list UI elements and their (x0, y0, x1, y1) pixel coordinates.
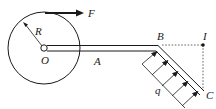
label-point-i: I (202, 30, 208, 42)
label-center: O (41, 54, 49, 66)
label-load-q: q (155, 84, 161, 96)
label-point-c: C (206, 89, 214, 101)
distributed-load (142, 52, 198, 109)
label-point-b: B (157, 30, 164, 42)
label-radius: R (34, 25, 42, 37)
label-force: F (87, 7, 95, 19)
point-i-dot (201, 43, 205, 47)
force-arrowhead (76, 10, 84, 17)
label-point-a: A (93, 55, 101, 67)
radius-arrowhead (23, 22, 28, 27)
mechanics-diagram: F R O A B I C q (0, 0, 216, 109)
incline-bottom (156, 51, 200, 95)
incline-top (158, 46, 204, 92)
